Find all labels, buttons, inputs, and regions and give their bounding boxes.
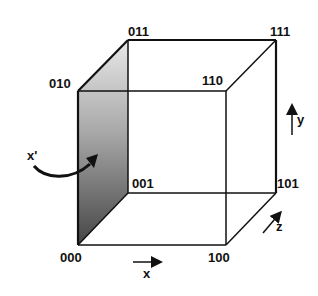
shaded-face — [78, 40, 128, 245]
edge-110-111 — [226, 40, 276, 91]
y-axis-label: y — [297, 112, 305, 127]
vertex-label-011: 011 — [128, 24, 149, 39]
x-axis-label: x — [143, 266, 151, 281]
vertex-label-000: 000 — [60, 250, 82, 265]
vertex-label-110: 110 — [202, 73, 223, 88]
vertex-label-100: 100 — [208, 250, 230, 265]
cube-diagram: 000 001 010 011 100 101 110 111 x' x y z — [0, 0, 318, 296]
vertex-label-010: 010 — [49, 76, 71, 91]
edge-100-101 — [226, 193, 276, 245]
vertex-label-111: 111 — [270, 24, 290, 39]
cube-svg: 000 001 010 011 100 101 110 111 x' x y z — [0, 0, 318, 296]
z-axis-label: z — [276, 219, 283, 234]
vertex-label-101: 101 — [277, 176, 299, 191]
vertex-label-001: 001 — [132, 176, 154, 191]
rotation-label: x' — [27, 148, 37, 163]
